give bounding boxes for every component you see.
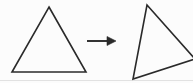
figure-canvas: [0, 0, 193, 83]
figure-root: An upright triangle, an arrow pointing r…: [0, 0, 193, 83]
